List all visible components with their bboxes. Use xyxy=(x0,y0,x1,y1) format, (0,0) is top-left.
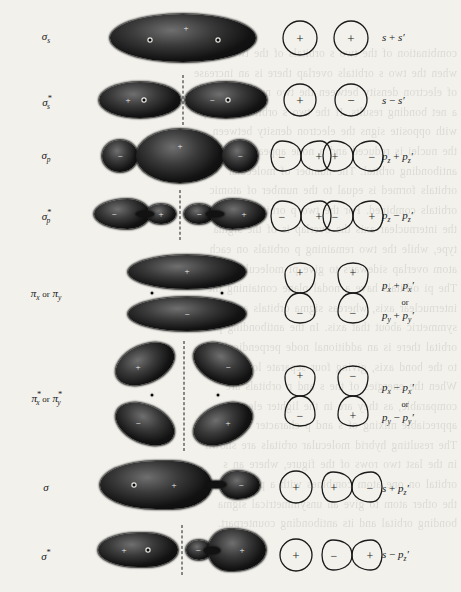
mo-row-sigma-p-star: σ*p − + − + − + xyxy=(0,185,461,247)
schematic-pi-star: + − − + xyxy=(272,339,382,453)
svg-text:−: − xyxy=(279,150,286,164)
svg-text:−: − xyxy=(350,306,357,320)
lobe-bridge-left xyxy=(136,211,154,217)
lobe-positive-center xyxy=(136,129,224,183)
orbital-label-sigma: σ xyxy=(0,481,92,493)
electron-density-sigma-p: − + − xyxy=(92,127,272,185)
nucleus-right xyxy=(221,292,224,295)
svg-text:+: + xyxy=(316,210,323,224)
lobe-positive xyxy=(110,14,256,62)
formula-pi-star: px − px′ or py − py′ xyxy=(382,381,461,428)
lobe-positive-large xyxy=(100,461,212,509)
svg-text:−: − xyxy=(332,210,339,224)
svg-text:+: + xyxy=(332,150,339,164)
electron-density-sigma-s-star: + − xyxy=(92,72,272,127)
sign-minus-small: − xyxy=(238,481,243,490)
formula-sigma-p: pz + pz′ xyxy=(382,150,461,167)
orbital-label-sigma-s: σs xyxy=(0,30,92,45)
svg-text:−: − xyxy=(369,150,376,164)
svg-text:+: + xyxy=(331,481,338,495)
svg-text:−: − xyxy=(347,93,354,108)
schematic-sigma-p-star: − + − + xyxy=(272,185,382,247)
sign-plus-2: + xyxy=(158,210,163,219)
electron-density-sigma-p-star: − + − + xyxy=(92,185,272,247)
svg-text:−: − xyxy=(350,369,357,383)
sign-plus-4: + xyxy=(241,210,246,219)
svg-text:+: + xyxy=(297,369,304,383)
nucleus-left xyxy=(143,99,146,102)
orbital-label-sigma-p: σp xyxy=(0,149,92,164)
orbital-label-pi-star: π*x or π*y xyxy=(0,389,92,407)
orbital-label-pi: πx or πy xyxy=(0,287,92,302)
sign-plus-center: + xyxy=(177,142,182,151)
sign-plus-bottom-right: + xyxy=(225,419,230,428)
mo-row-sigma-p: σp − + − − + + − xyxy=(0,127,461,185)
svg-text:+: + xyxy=(369,210,376,224)
mo-row-sigma-s-star: σ*s + − + − s − s′ xyxy=(0,72,461,127)
formula-sigma-s: s + s′ xyxy=(382,31,461,44)
svg-text:+: + xyxy=(350,266,357,280)
electron-density-sigma-s: + xyxy=(92,0,272,72)
sign-minus-small: − xyxy=(195,546,200,555)
nodal-plane xyxy=(180,190,181,240)
nodal-plane xyxy=(183,75,184,125)
mo-row-sigma-sp: σ + − + + − s + pz′ xyxy=(0,453,461,523)
nucleus-left xyxy=(151,394,154,397)
nucleus-left xyxy=(133,484,136,487)
svg-text:+: + xyxy=(297,266,304,280)
lobe-bridge-right xyxy=(206,211,224,217)
svg-text:+: + xyxy=(292,548,299,563)
mo-row-sigma-sp-star: σ* + − + + − + s xyxy=(0,523,461,592)
lobe-plus-bottom-right xyxy=(187,394,259,454)
formula-sigma-sp: s + pz′ xyxy=(382,482,461,499)
formula-pi: px + px′ or py + py′ xyxy=(382,279,461,326)
sign-plus: + xyxy=(183,24,188,33)
svg-text:+: + xyxy=(292,480,299,495)
electron-density-sigma-sp: + − xyxy=(92,453,272,523)
svg-text:+: + xyxy=(350,409,357,423)
nucleus-right xyxy=(217,39,220,42)
electron-density-pi-star: + − − + xyxy=(92,339,272,453)
schematic-sigma-p: − + + − xyxy=(272,127,382,185)
nucleus-right xyxy=(227,99,230,102)
sign-plus-right: + xyxy=(239,546,244,555)
lobe-minus-bottom-left xyxy=(109,394,181,454)
mo-row-pi-star: π*x or π*y + − − + + − xyxy=(0,339,461,453)
svg-text:+: + xyxy=(347,31,354,46)
sign-plus-top: + xyxy=(184,267,189,276)
sign-minus-bottom-left: − xyxy=(135,419,140,428)
svg-text:−: − xyxy=(279,210,286,224)
nucleus-left xyxy=(149,39,152,42)
svg-text:−: − xyxy=(297,409,304,423)
mo-row-pi: πx or πy + − + − + − xyxy=(0,247,461,339)
lobe-positive-left xyxy=(98,533,178,567)
formula-or: or xyxy=(382,296,428,309)
formula-sigma-p-star: pz − pz′ xyxy=(382,209,461,226)
svg-text:+: + xyxy=(316,150,323,164)
sign-minus-top-right: − xyxy=(225,363,230,372)
schematic-sigma-s-star: + − xyxy=(272,72,382,127)
svg-text:+: + xyxy=(367,549,374,563)
lobe-positive xyxy=(99,82,181,118)
sign-minus-1: − xyxy=(111,210,116,219)
schematic-sigma-s: + + xyxy=(272,0,382,72)
sign-plus-top-left: + xyxy=(135,363,140,372)
sign-minus-left: − xyxy=(117,152,122,161)
svg-text:−: − xyxy=(297,306,304,320)
nucleus-left xyxy=(151,292,154,295)
formula-or: or xyxy=(382,398,428,411)
sign-plus-large: + xyxy=(171,481,176,490)
nucleus-right xyxy=(217,394,220,397)
nucleus-left xyxy=(147,549,150,552)
orbital-label-sigma-star: σ* xyxy=(0,547,92,562)
electron-density-sigma-sp-star: + − + xyxy=(92,523,272,592)
lobe-minus-top-right xyxy=(187,334,259,394)
svg-text:+: + xyxy=(296,93,303,108)
schematic-pi: + − + − xyxy=(272,247,382,339)
svg-text:−: − xyxy=(367,481,374,495)
lobe-plus-top-left xyxy=(109,334,181,394)
svg-text:−: − xyxy=(331,549,338,563)
sign-plus: + xyxy=(125,96,130,105)
orbital-label-sigma-s-star: σ*s xyxy=(0,93,92,111)
mo-row-sigma-s: σs + + + s + s′ xyxy=(0,0,461,72)
